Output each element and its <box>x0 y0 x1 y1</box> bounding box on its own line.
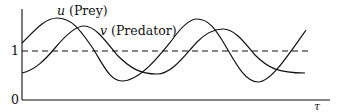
prey-text: (Prey) <box>69 3 108 18</box>
x-axis-label: τ <box>314 101 320 112</box>
prey-label: u (Prey) <box>57 5 108 18</box>
y-tick-zero: 0 <box>11 94 19 107</box>
prey-var: u <box>57 3 65 18</box>
predator-text: (Predator) <box>111 23 177 38</box>
predator-label: v (Predator) <box>100 25 177 38</box>
predator-var: v <box>100 23 107 38</box>
y-tick-one: 1 <box>11 45 19 58</box>
chart-plot <box>0 0 341 112</box>
